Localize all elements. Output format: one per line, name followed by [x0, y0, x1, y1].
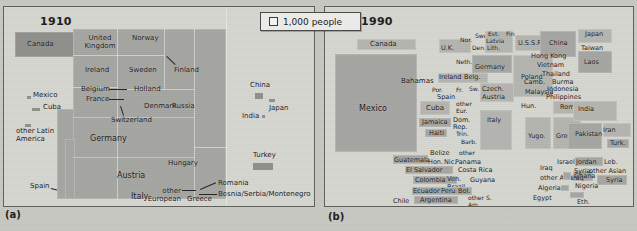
label-uk-1990: U.K.: [441, 45, 454, 52]
label-austria-1990: Austria: [482, 94, 505, 101]
label-norway-1990: Nor.: [460, 37, 472, 44]
label-other-europe-1990: other Eur.: [456, 101, 474, 114]
label-romania-1910: Romania: [218, 180, 249, 188]
label-japan-1990: Japan: [585, 31, 603, 38]
label-south-africa-1990: Eth.: [577, 199, 590, 206]
label-jamaica-1990: Jamaica: [422, 119, 448, 126]
label-haiti-1990: Haiti: [429, 130, 444, 137]
label-syria-1990: other Asian: [589, 168, 626, 175]
label-other-caribbean-1990: other: [459, 150, 475, 157]
label-yugoslavia-1990: Yugo.: [528, 133, 545, 140]
panel-1990: 1990 Canada Mexico Bahamas Cuba Jamaica …: [324, 6, 634, 207]
label-italy-1910: Italy: [131, 193, 148, 202]
label-lithuania-1990: Lith.: [487, 45, 500, 52]
label-belgium-1990: Belg.: [464, 74, 480, 81]
label-japan-1910: Japan: [269, 105, 289, 113]
label-jordan-1990: Leb.: [604, 159, 618, 166]
divider-horizontal-1: [73, 55, 117, 56]
block-africa-cluster2-1990: [561, 185, 569, 191]
label-guyana-1990: Guyana: [470, 177, 495, 184]
label-finland-1910: Finland: [174, 67, 199, 75]
label-china-1990: China: [549, 40, 568, 47]
label-spain-1990: Spain: [437, 94, 455, 101]
label-netherlands-1990: Neth.: [456, 59, 472, 66]
caption-panel-a: (a): [5, 209, 21, 220]
leader-belgium-1910: [109, 89, 127, 90]
label-trinidad-1990: Trin.: [456, 131, 469, 138]
label-venezuela-1990: Ven.: [447, 176, 461, 183]
label-cuba-1990: Cuba: [426, 105, 444, 113]
leader-bosnia-1910: [199, 194, 217, 195]
label-hungary-1910: Hungary: [168, 160, 198, 168]
label-philippines-1990: India: [578, 106, 594, 113]
legend-label: 1,000 people: [283, 17, 342, 27]
panel-1990-year: 1990: [361, 15, 393, 28]
label-france-1910: France: [86, 96, 109, 104]
label-bahamas-1990: Bahamas: [401, 78, 434, 86]
label-iraq-1990: Syria: [606, 177, 622, 184]
label-canada-1910: Canada: [27, 41, 54, 49]
caption-panel-b: (b): [328, 211, 344, 222]
label-russia-1910: Russia: [172, 103, 195, 111]
label-dominican-republic-1990: Dom. Rep.: [453, 117, 475, 131]
label-india-1910: India: [242, 113, 259, 121]
label-laos-1990: Thailand: [542, 71, 570, 78]
label-hungary-1990: Hun.: [521, 103, 536, 110]
panel-a-inner-edge: [226, 7, 227, 207]
label-belgium-1910: Belgium: [81, 86, 110, 94]
label-honduras-1990: Hon.: [428, 159, 443, 166]
label-indonesia-1990: Philippines: [546, 94, 581, 101]
label-denmark-1990: Den.: [472, 45, 486, 52]
label-hong-kong-1990: Hong Kong: [531, 53, 566, 60]
label-china-1910: China: [250, 82, 270, 90]
label-mexico-1910: Mexico: [33, 92, 57, 100]
divider-vertical-2: [164, 29, 165, 89]
label-spain-1910: Spain: [30, 183, 50, 191]
block-mexico-1990: [335, 54, 417, 152]
label-nigeria-1990: Algeria: [538, 185, 561, 192]
label-ireland-1990: Ireland: [439, 74, 461, 81]
label-germany-1990: Germany: [475, 64, 505, 71]
divider-vertical-3: [194, 29, 195, 199]
label-peru-1990: Peru: [441, 188, 455, 195]
label-czech-1990: Czech.: [482, 86, 504, 93]
label-austria-1910: Austria: [117, 172, 145, 181]
divider-horizontal-7: [194, 147, 226, 148]
divider-horizontal-3: [117, 55, 164, 56]
panel-1910: 1910 Canada Mexico Cuba other Latin Amer…: [3, 6, 315, 207]
label-algeria-1990: Iraq: [540, 165, 553, 172]
label-other-european-1910: other European: [147, 188, 181, 203]
label-italy-1990: Italy: [487, 117, 501, 124]
label-mexico-1990: Mexico: [359, 105, 387, 114]
label-israel-1990: Jordan: [576, 159, 597, 166]
block-cuba-1910: [32, 108, 40, 111]
label-ecuador-1990: Ecuador: [413, 188, 440, 195]
label-greece-1910: Greece: [187, 196, 212, 204]
label-other-south-america-1990: other S. Am.: [468, 195, 494, 207]
label-united-kingdom-1910: United Kingdom: [83, 35, 117, 50]
label-norway-1910: Norway: [132, 35, 159, 43]
label-turkey-1910: Turkey: [253, 152, 276, 160]
label-sweden-1910: Sweden: [129, 67, 157, 75]
label-turkey-1990: Israel: [557, 159, 575, 166]
label-malaysia-1990: Indonesia: [547, 86, 578, 93]
label-switzerland-1910: Switzerland: [111, 117, 152, 125]
label-thailand-1990: Camb.: [524, 79, 545, 86]
label-other-africa-1990: Egypt: [533, 195, 552, 202]
divider-horizontal-6: [73, 157, 194, 158]
label-canada-1990: Canada: [370, 41, 397, 49]
legend-box: 1,000 people: [260, 12, 361, 31]
block-turkey-1910: [253, 163, 273, 170]
label-costa-rica-1990: Costa Rica: [458, 167, 492, 174]
block-mexico-1910: [27, 96, 31, 99]
label-ireland-1910: Ireland: [85, 67, 109, 75]
block-china-1910: [255, 93, 263, 99]
label-other-latin-america-1910: other Latin America: [16, 128, 58, 143]
label-barbados-1990: Barb.: [461, 139, 477, 146]
leader-other-european-1910: [182, 190, 196, 191]
panel-1910-year: 1910: [40, 15, 72, 28]
label-el-salvador-1990: El Salvador: [406, 167, 443, 174]
legend-square-icon: [269, 17, 278, 26]
label-other-asian-1990: Iraq: [571, 175, 593, 182]
label-germany-1910: Germany: [90, 135, 127, 144]
